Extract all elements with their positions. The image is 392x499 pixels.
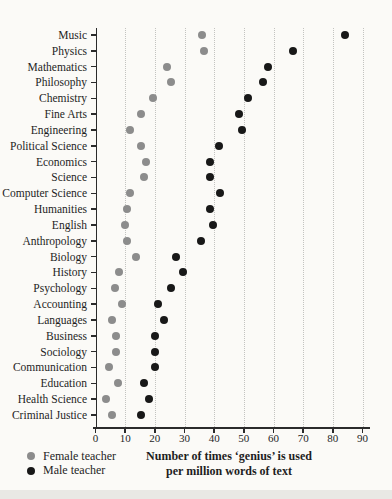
category-label: Philosophy (0, 75, 87, 89)
female-dot (163, 63, 171, 71)
male-dot (179, 268, 187, 276)
female-dot (132, 253, 140, 261)
category-label: Languages (0, 313, 87, 327)
x-tick-label: 20 (143, 432, 167, 444)
y-tick (91, 66, 96, 68)
x-axis-title: Number of times ‘genius’ is used per mil… (98, 449, 360, 478)
male-dot (259, 78, 267, 86)
gridline (244, 28, 245, 427)
female-dot (142, 158, 150, 166)
female-dot (140, 173, 148, 181)
male-dot (238, 126, 246, 134)
female-dot (123, 237, 131, 245)
male-dot (160, 316, 168, 324)
category-label: English (0, 218, 87, 232)
female-dot (102, 395, 110, 403)
female-dot (108, 316, 116, 324)
y-tick (91, 82, 96, 84)
y-tick (91, 145, 96, 147)
y-tick (91, 383, 96, 385)
y-tick (91, 319, 96, 321)
category-label: Accounting (0, 297, 87, 311)
category-label: History (0, 265, 87, 279)
x-tick-label: 80 (321, 432, 345, 444)
male-dot (172, 253, 180, 261)
y-tick (91, 398, 96, 400)
category-label: Biology (0, 250, 87, 264)
category-label: Health Science (0, 392, 87, 406)
category-label: Music (0, 28, 87, 42)
category-label: Anthropology (0, 234, 87, 248)
female-dot (112, 332, 120, 340)
male-dot (137, 411, 145, 419)
category-label: Computer Science (0, 186, 87, 200)
x-axis-line (93, 427, 371, 429)
male-dot (167, 284, 175, 292)
y-tick (91, 193, 96, 195)
x-tick-label: 90 (351, 432, 375, 444)
legend-label-male: Male teacher (43, 463, 105, 478)
y-axis-line (96, 28, 98, 429)
category-label: Chemistry (0, 91, 87, 105)
y-tick (91, 177, 96, 179)
category-label: Communication (0, 360, 87, 374)
category-label: Political Science (0, 139, 87, 153)
female-dot (198, 31, 206, 39)
female-dot (115, 268, 123, 276)
gridline (185, 28, 186, 427)
female-dot (123, 205, 131, 213)
x-tick-label: 0 (84, 432, 108, 444)
category-label: Psychology (0, 281, 87, 295)
gridline (363, 28, 364, 427)
female-dot (111, 284, 119, 292)
category-label: Economics (0, 155, 87, 169)
y-tick (91, 367, 96, 369)
male-dot (289, 47, 297, 55)
x-tick-label: 10 (113, 432, 137, 444)
y-tick (91, 224, 96, 226)
y-tick (91, 161, 96, 163)
male-dot (151, 363, 159, 371)
gridline (333, 28, 334, 427)
y-tick (91, 129, 96, 131)
black-dot-icon (27, 467, 35, 475)
x-tick-label: 40 (202, 432, 226, 444)
male-dot (209, 221, 217, 229)
female-dot (114, 379, 122, 387)
female-dot-icon (27, 452, 35, 460)
category-label: Engineering (0, 123, 87, 137)
plot-area: 0102030405060708090MusicPhysicsMathemati… (0, 0, 392, 499)
y-tick (91, 335, 96, 337)
male-dot (216, 189, 224, 197)
female-dot (105, 363, 113, 371)
y-tick (91, 303, 96, 305)
gridline (274, 28, 275, 427)
category-label: Criminal Justice (0, 408, 87, 422)
female-dot (137, 110, 145, 118)
female-dot (108, 411, 116, 419)
x-axis-title-line2: per million words of text (98, 464, 360, 479)
category-label: Physics (0, 44, 87, 58)
y-tick (91, 34, 96, 36)
male-dot (197, 237, 205, 245)
category-label: Humanities (0, 202, 87, 216)
male-dot (145, 395, 153, 403)
y-tick (91, 414, 96, 416)
genius-usage-dot-plot-figure: 0102030405060708090MusicPhysicsMathemati… (0, 0, 392, 499)
x-tick-label: 30 (173, 432, 197, 444)
male-dot (151, 348, 159, 356)
y-tick (91, 351, 96, 353)
female-dot (137, 142, 145, 150)
y-tick (91, 272, 96, 274)
category-label: Science (0, 170, 87, 184)
male-dot (264, 63, 272, 71)
male-dot (151, 332, 159, 340)
y-tick (91, 98, 96, 100)
female-dot (167, 78, 175, 86)
male-dot (235, 110, 243, 118)
male-dot (341, 31, 349, 39)
y-tick (91, 208, 96, 210)
male-dot (244, 94, 252, 102)
y-tick (91, 256, 96, 258)
x-tick-label: 60 (262, 432, 286, 444)
